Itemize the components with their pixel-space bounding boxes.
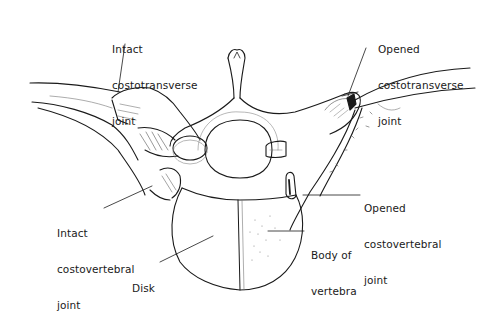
- spinous-process: [228, 49, 245, 98]
- leader-opened-costotransverse: [348, 48, 366, 96]
- label-opened-costotransverse-joint: Opened costotransverse joint: [378, 19, 464, 139]
- label-intact-costotransverse-joint: Intact costotransverse joint: [112, 19, 198, 139]
- superior-articular-facet-left: [173, 136, 207, 164]
- label-intact-costovertebral-joint: Intact costovertebral joint: [57, 203, 135, 315]
- leader-disk: [160, 236, 213, 262]
- label-opened-costovertebral-joint: Opened costovertebral joint: [364, 178, 442, 298]
- vertebral-body: [172, 188, 303, 290]
- intact-costovertebral-joint: [150, 168, 181, 200]
- label-body-of-vertebra: Body of vertebra: [311, 225, 357, 309]
- superior-articular-facet-right: [266, 141, 286, 157]
- label-disk: Disk: [132, 258, 155, 306]
